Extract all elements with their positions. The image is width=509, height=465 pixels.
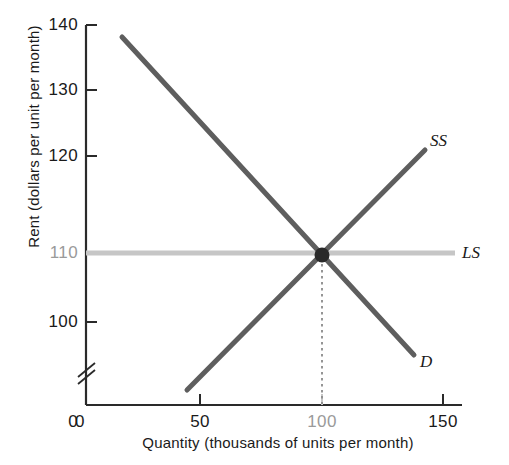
x-axis-title: Quantity (thousands of units per month) bbox=[88, 434, 468, 451]
supply-demand-chart: 140 130 120 110 100 0 0 50 100 150 Rent … bbox=[0, 0, 509, 465]
x-tick-label-100: 100 bbox=[297, 412, 347, 432]
x-tick-label-0: 0 bbox=[60, 412, 100, 432]
chart-plot-area bbox=[0, 0, 509, 465]
series-label-d: D bbox=[420, 352, 432, 372]
y-axis-title: Rent (dollars per unit per month) bbox=[25, 12, 42, 262]
x-tick-label-150: 150 bbox=[418, 412, 468, 432]
series-label-ls: LS bbox=[462, 243, 480, 263]
series-label-ss: SS bbox=[430, 131, 447, 151]
y-tick-label-100: 100 bbox=[16, 312, 78, 332]
equilibrium-point-marker bbox=[315, 248, 330, 263]
series-line-ss bbox=[187, 150, 425, 390]
x-tick-label-50: 50 bbox=[180, 412, 220, 432]
